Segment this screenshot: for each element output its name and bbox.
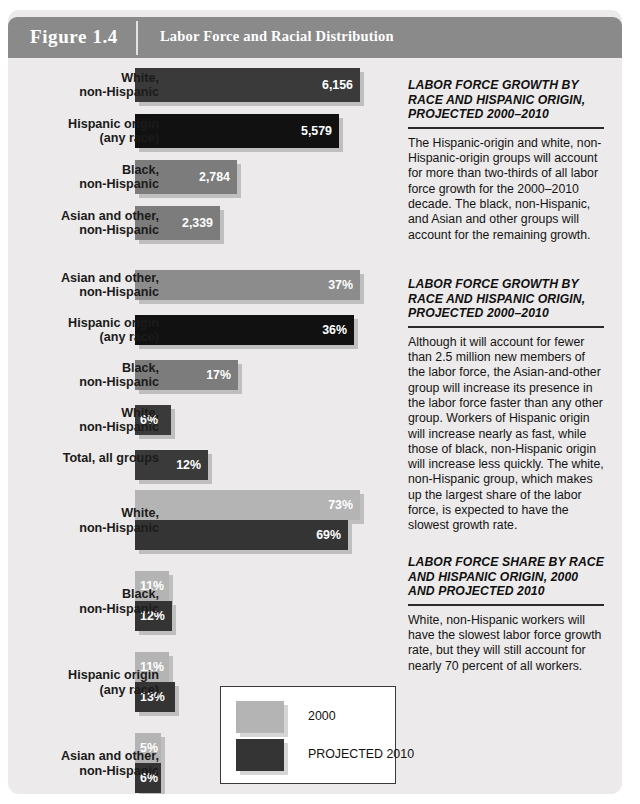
sidebar-rule — [408, 326, 604, 328]
bar-value-label: 36% — [322, 323, 347, 337]
sidebar-rule — [408, 127, 604, 129]
sidebar-rule — [408, 604, 604, 606]
bar-row: 6,156 — [135, 68, 360, 102]
sidebar-block-1: LABOR FORCE GROWTH BY RACE AND HISPANIC … — [408, 78, 604, 243]
figure-header: Figure 1.4 Labor Force and Racial Distri… — [8, 17, 622, 58]
bar-category-label: White,non-Hispanic — [8, 71, 159, 100]
bar-value-label: 12% — [176, 458, 201, 472]
bar-row: 73%69% — [135, 490, 360, 550]
figure-panel: Figure 1.4 Labor Force and Racial Distri… — [8, 10, 622, 794]
sidebar-heading: LABOR FORCE GROWTH BY RACE AND HISPANIC … — [408, 78, 604, 122]
chart-legend: 2000 PROJECTED 2010 — [220, 686, 396, 784]
bar-value-label: 2,339 — [182, 216, 213, 230]
bar: 5,579 — [135, 114, 339, 148]
sidebar-block-2: LABOR FORCE GROWTH BY RACE AND HISPANIC … — [408, 277, 604, 534]
bar-category-label: Hispanic origin(any race) — [8, 668, 159, 697]
sidebar-block-3: LABOR FORCE SHARE BY RACE AND HISPANIC O… — [408, 555, 604, 674]
bar: 69% — [135, 520, 348, 550]
bar-row: 36% — [135, 315, 354, 345]
bar-value-label: 69% — [316, 528, 341, 542]
bar-category-label: Asian and other,non-Hispanic — [8, 749, 159, 778]
sidebar-body: White, non-Hispanic workers will have th… — [408, 613, 604, 674]
bar-value-label: 6,156 — [322, 78, 353, 92]
bar-category-label: White,non-Hispanic — [8, 406, 159, 435]
bar-value-label: 2,784 — [199, 170, 230, 184]
header-divider — [136, 21, 138, 55]
figure-number: Figure 1.4 — [30, 26, 118, 48]
bar: 36% — [135, 315, 354, 345]
bar-category-label: Asian and other,non-Hispanic — [8, 209, 159, 238]
bar-row: 5,579 — [135, 114, 339, 148]
sidebar-body: Although it will account for fewer than … — [408, 335, 604, 534]
bar-value-label: 5,579 — [301, 124, 332, 138]
legend-label: PROJECTED 2010 — [308, 747, 414, 761]
bar-category-label: Hispanic origin(any race) — [8, 117, 159, 146]
bar-category-label: Total, all groups — [8, 451, 159, 466]
sidebar-heading: LABOR FORCE SHARE BY RACE AND HISPANIC O… — [408, 555, 604, 599]
bar-category-label: Black,non-Hispanic — [8, 587, 159, 616]
legend-swatch-projected-2010 — [236, 739, 284, 771]
sidebar-heading: LABOR FORCE GROWTH BY RACE AND HISPANIC … — [408, 277, 604, 321]
legend-label: 2000 — [308, 709, 336, 723]
bar: 37% — [135, 270, 360, 300]
figure-title: Labor Force and Racial Distribution — [160, 28, 394, 45]
bar-value-label: 73% — [328, 498, 353, 512]
sidebar-body: The Hispanic-origin and white, non-Hispa… — [408, 136, 604, 243]
bar: 73% — [135, 490, 360, 520]
bar-category-label: White,non-Hispanic — [8, 506, 159, 535]
bar-category-label: Asian and other,non-Hispanic — [8, 271, 159, 300]
bar-value-label: 17% — [206, 368, 231, 382]
bar-category-label: Black,non-Hispanic — [8, 163, 159, 192]
bar-value-label: 37% — [328, 278, 353, 292]
bar: 6,156 — [135, 68, 360, 102]
bar-category-label: Black,non-Hispanic — [8, 361, 159, 390]
bar-row: 37% — [135, 270, 360, 300]
bar-category-label: Hispanic origin(any race) — [8, 316, 159, 345]
legend-swatch-2000 — [236, 701, 284, 733]
